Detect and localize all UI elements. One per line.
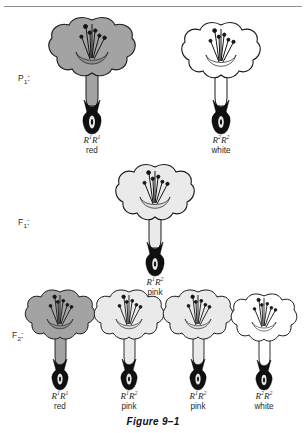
top-divider-rule (4, 6, 302, 7)
allele-sup-b: 2 (270, 390, 273, 396)
plant-f2-pink-2 (160, 286, 236, 390)
plant-f2-pink-1 (91, 286, 167, 390)
generation-label-p1: P1: (18, 73, 30, 85)
plant-f2-red (22, 286, 98, 390)
phenotype-p1-red: red (42, 146, 142, 156)
caption-p1-white: R2R2 white (171, 134, 271, 155)
flower-illustration-red (46, 12, 138, 134)
allele-sup-b: 1 (66, 390, 69, 396)
caption-p1-red: R1R1 red (42, 134, 142, 155)
allele-sup-b: 2 (161, 276, 164, 282)
flower-illustration-white (178, 18, 264, 134)
flower-illustration-pink-f2-1 (91, 286, 167, 390)
flower-illustration-white-f2 (228, 290, 300, 390)
generation-label-f1-colon: : (27, 217, 30, 227)
plant-p1-white (178, 18, 264, 134)
phenotype-f2-white: white (222, 402, 306, 412)
genotype-p1-white: R2R2 (171, 134, 271, 146)
allele-sup-b: 2 (135, 390, 138, 396)
allele-sup-b: 2 (227, 134, 230, 140)
caption-f2-white: R2R2 white (222, 390, 306, 411)
genetics-figure: P1: (0, 0, 306, 433)
generation-label-f1: F1: (18, 217, 30, 229)
flower-illustration-red-f2 (22, 286, 98, 390)
phenotype-p1-white: white (171, 146, 271, 156)
allele-sup-b: 2 (204, 390, 207, 396)
genotype-f2-white: R2R2 (222, 390, 306, 402)
plant-f2-white (228, 290, 300, 390)
flower-illustration-pink (112, 160, 198, 276)
plant-f1-pink (112, 160, 198, 276)
allele-sup-b: 1 (98, 134, 101, 140)
generation-label-p1-colon: : (28, 73, 31, 83)
flower-illustration-pink-f2-2 (160, 286, 236, 390)
genotype-p1-red: R1R1 (42, 134, 142, 146)
figure-caption: Figure 9–1 (0, 416, 306, 427)
plant-p1-red (46, 12, 138, 134)
